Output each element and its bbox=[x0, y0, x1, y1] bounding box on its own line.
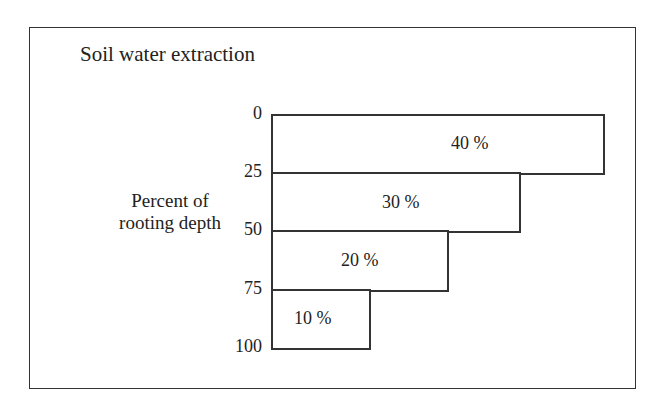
bar-label-10: 10 % bbox=[294, 308, 332, 329]
bar-label-20: 20 % bbox=[341, 250, 379, 271]
y-tick-100: 100 bbox=[212, 336, 262, 357]
bar-label-40: 40 % bbox=[451, 133, 489, 154]
y-axis-label-line1: Percent of bbox=[110, 190, 230, 212]
y-tick-50: 50 bbox=[212, 219, 262, 240]
y-tick-25: 25 bbox=[212, 161, 262, 182]
bar-0-25 bbox=[271, 114, 605, 175]
y-tick-75: 75 bbox=[212, 278, 262, 299]
y-tick-0: 0 bbox=[212, 103, 262, 124]
bar-label-30: 30 % bbox=[382, 192, 420, 213]
chart-title: Soil water extraction bbox=[80, 42, 255, 67]
